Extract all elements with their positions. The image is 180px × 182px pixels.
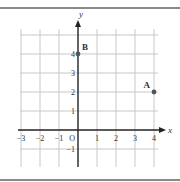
y-tick-label: 3 xyxy=(71,69,75,78)
x-axis-arrow-icon xyxy=(159,127,166,133)
y-tick-label: 1 xyxy=(71,107,75,116)
x-tick-label: 2 xyxy=(114,134,118,143)
point-a-label: A xyxy=(144,80,151,90)
y-axis-arrow-icon xyxy=(75,20,81,27)
bottom-border xyxy=(0,179,180,181)
x-tick-label: −2 xyxy=(36,134,45,143)
y-tick-label: 4 xyxy=(71,50,75,59)
origin-label: O xyxy=(69,134,75,143)
grid-lines xyxy=(20,29,158,167)
coordinate-plane-figure: xy −3−2−11234−11234O AB xyxy=(0,0,180,182)
x-tick-label: 3 xyxy=(133,134,137,143)
top-border xyxy=(0,7,180,9)
x-tick-label: −3 xyxy=(17,134,26,143)
point-b-marker xyxy=(76,52,81,57)
y-tick-label: −1 xyxy=(66,145,75,154)
x-tick-label: −1 xyxy=(55,134,64,143)
y-axis-label: y xyxy=(78,9,83,19)
x-axis-label: x xyxy=(167,125,172,135)
coordinate-plane-svg: xy −3−2−11234−11234O AB xyxy=(0,0,180,182)
x-tick-label: 4 xyxy=(152,134,156,143)
x-tick-label: 1 xyxy=(95,134,99,143)
point-a-marker xyxy=(152,90,157,95)
y-tick-label: 2 xyxy=(71,88,75,97)
point-b-label: B xyxy=(82,42,88,52)
